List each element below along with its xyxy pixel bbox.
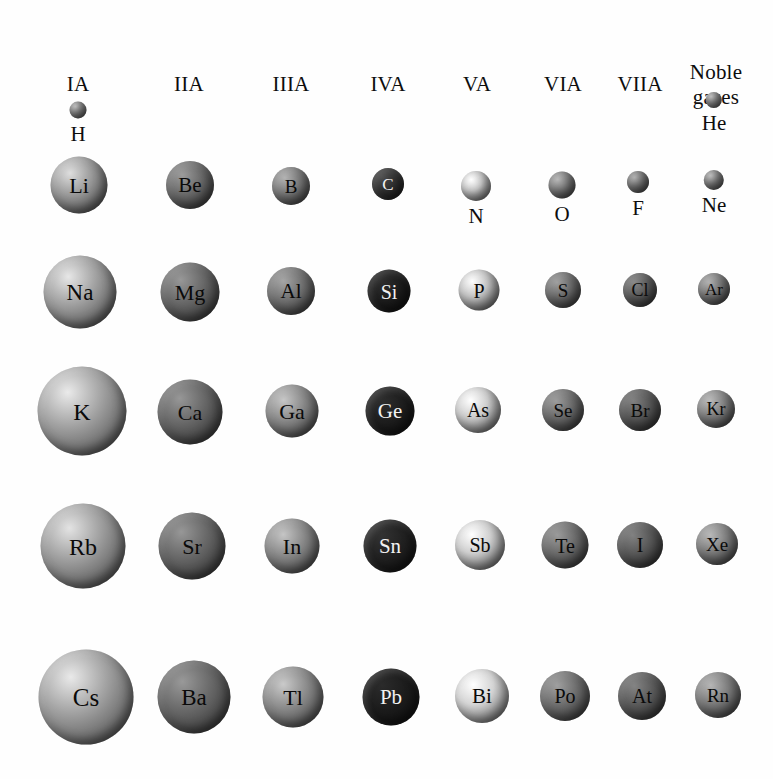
sphere-rn[interactable]: Rn bbox=[695, 672, 741, 718]
element-symbol-na: Na bbox=[67, 281, 94, 304]
sphere-kr[interactable]: Kr bbox=[697, 390, 735, 428]
element-li[interactable]: Li bbox=[51, 157, 108, 214]
element-be[interactable]: Be bbox=[166, 161, 214, 209]
element-n[interactable]: N bbox=[461, 171, 491, 227]
element-rn[interactable]: Rn bbox=[695, 672, 741, 718]
sphere-cl[interactable]: Cl bbox=[623, 273, 657, 307]
element-se[interactable]: Se bbox=[542, 389, 584, 431]
sphere-ga[interactable]: Ga bbox=[266, 385, 319, 438]
sphere-li[interactable]: Li bbox=[51, 157, 108, 214]
sphere-n[interactable] bbox=[461, 171, 491, 201]
group-header-iia: IIA bbox=[143, 72, 235, 97]
element-mg[interactable]: Mg bbox=[161, 263, 220, 322]
element-sn[interactable]: Sn bbox=[364, 520, 417, 573]
element-bi[interactable]: Bi bbox=[455, 669, 509, 723]
element-h[interactable]: H bbox=[70, 101, 87, 144]
sphere-s[interactable]: S bbox=[545, 272, 581, 308]
sphere-k[interactable]: K bbox=[38, 367, 127, 456]
sphere-mg[interactable]: Mg bbox=[161, 263, 220, 322]
sphere-ne[interactable] bbox=[704, 170, 724, 190]
sphere-at[interactable]: At bbox=[618, 672, 666, 720]
element-in[interactable]: In bbox=[265, 519, 320, 574]
element-al[interactable]: Al bbox=[267, 267, 315, 315]
element-symbol-at: At bbox=[632, 686, 652, 706]
sphere-f[interactable] bbox=[627, 171, 649, 193]
sphere-ca[interactable]: Ca bbox=[158, 380, 223, 445]
element-rb[interactable]: Rb bbox=[41, 504, 126, 589]
element-p[interactable]: P bbox=[459, 270, 500, 311]
element-ca[interactable]: Ca bbox=[158, 380, 223, 445]
element-cl[interactable]: Cl bbox=[623, 273, 657, 307]
sphere-ar[interactable]: Ar bbox=[698, 273, 730, 305]
group-header-ia: IA bbox=[32, 72, 124, 97]
element-symbol-sn: Sn bbox=[379, 536, 401, 557]
element-pb[interactable]: Pb bbox=[363, 669, 420, 726]
sphere-po[interactable]: Po bbox=[540, 671, 590, 721]
atomic-radii-figure: IAIIAIIIAIVAVAVIAVIIANoble gases HHeLiBe… bbox=[0, 0, 773, 779]
element-symbol-si: Si bbox=[381, 281, 398, 301]
element-ar[interactable]: Ar bbox=[698, 273, 730, 305]
sphere-as[interactable]: As bbox=[455, 387, 501, 433]
sphere-ba[interactable]: Ba bbox=[158, 661, 231, 734]
element-c[interactable]: C bbox=[372, 168, 404, 200]
sphere-rb[interactable]: Rb bbox=[41, 504, 126, 589]
sphere-c[interactable]: C bbox=[372, 168, 404, 200]
sphere-na[interactable]: Na bbox=[44, 256, 117, 329]
sphere-i[interactable]: I bbox=[617, 522, 663, 568]
sphere-se[interactable]: Se bbox=[542, 389, 584, 431]
sphere-te[interactable]: Te bbox=[542, 522, 589, 569]
sphere-br[interactable]: Br bbox=[619, 389, 661, 431]
sphere-be[interactable]: Be bbox=[166, 161, 214, 209]
element-symbol-sr: Sr bbox=[182, 535, 202, 557]
element-ne[interactable]: Ne bbox=[702, 170, 727, 216]
sphere-h[interactable] bbox=[70, 101, 87, 118]
element-sr[interactable]: Sr bbox=[159, 513, 226, 580]
sphere-si[interactable]: Si bbox=[368, 270, 411, 313]
element-si[interactable]: Si bbox=[368, 270, 411, 313]
element-ge[interactable]: Ge bbox=[366, 387, 415, 436]
element-ga[interactable]: Ga bbox=[266, 385, 319, 438]
sphere-sr[interactable]: Sr bbox=[159, 513, 226, 580]
element-at[interactable]: At bbox=[618, 672, 666, 720]
element-symbol-tl: Tl bbox=[283, 686, 303, 708]
sphere-cs[interactable]: Cs bbox=[39, 650, 134, 745]
element-te[interactable]: Te bbox=[542, 522, 589, 569]
element-s[interactable]: S bbox=[545, 272, 581, 308]
element-cs[interactable]: Cs bbox=[39, 650, 134, 745]
element-he[interactable]: He bbox=[702, 92, 727, 134]
sphere-b[interactable]: B bbox=[272, 167, 310, 205]
sphere-pb[interactable]: Pb bbox=[363, 669, 420, 726]
element-k[interactable]: K bbox=[38, 367, 127, 456]
element-symbol-po: Po bbox=[554, 686, 575, 706]
sphere-sb[interactable]: Sb bbox=[455, 520, 505, 570]
element-na[interactable]: Na bbox=[44, 256, 117, 329]
element-symbol-b: B bbox=[285, 177, 298, 196]
sphere-al[interactable]: Al bbox=[267, 267, 315, 315]
sphere-xe[interactable]: Xe bbox=[696, 523, 738, 565]
sphere-sn[interactable]: Sn bbox=[364, 520, 417, 573]
group-header-iiia: IIIA bbox=[245, 72, 337, 97]
element-i[interactable]: I bbox=[617, 522, 663, 568]
sphere-in[interactable]: In bbox=[265, 519, 320, 574]
element-o[interactable]: O bbox=[549, 171, 576, 224]
element-xe[interactable]: Xe bbox=[696, 523, 738, 565]
element-kr[interactable]: Kr bbox=[697, 390, 735, 428]
sphere-ge[interactable]: Ge bbox=[366, 387, 415, 436]
element-po[interactable]: Po bbox=[540, 671, 590, 721]
element-symbol-ar: Ar bbox=[705, 281, 723, 298]
sphere-bi[interactable]: Bi bbox=[455, 669, 509, 723]
sphere-he[interactable] bbox=[706, 92, 722, 108]
sphere-o[interactable] bbox=[549, 171, 576, 198]
element-symbol-as: As bbox=[467, 400, 489, 420]
element-ba[interactable]: Ba bbox=[158, 661, 231, 734]
sphere-p[interactable]: P bbox=[459, 270, 500, 311]
element-br[interactable]: Br bbox=[619, 389, 661, 431]
element-tl[interactable]: Tl bbox=[263, 667, 324, 728]
element-symbol-p: P bbox=[473, 280, 484, 300]
element-as[interactable]: As bbox=[455, 387, 501, 433]
element-f[interactable]: F bbox=[627, 171, 649, 219]
element-sb[interactable]: Sb bbox=[455, 520, 505, 570]
element-b[interactable]: B bbox=[272, 167, 310, 205]
element-symbol-li: Li bbox=[69, 174, 89, 196]
sphere-tl[interactable]: Tl bbox=[263, 667, 324, 728]
